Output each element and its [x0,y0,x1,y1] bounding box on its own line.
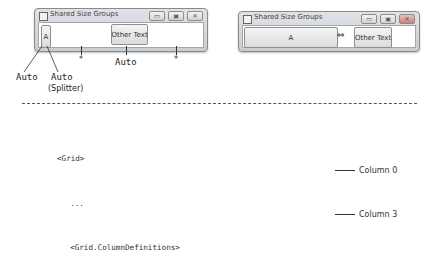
app-icon [243,15,252,24]
right-window-client: A ⇔ Other Text [242,25,416,48]
tick-star-2 [176,46,177,55]
button-other-text[interactable]: Other Text [354,27,392,48]
minimize-icon[interactable]: ▭ [361,14,377,24]
window-title: Shared Size Groups [254,13,322,21]
leader-line [335,214,355,215]
xaml-code-block: <Grid> ... <Grid.ColumnDefinitions> <Col… [57,123,312,265]
label-col1-auto: Auto [51,72,73,82]
app-icon [39,12,48,21]
label-col0-auto: Auto [16,72,38,82]
minimize-icon[interactable]: ▭ [149,11,165,21]
separator-dashed [22,103,417,104]
annotation-column-3: Column 3 [335,210,397,219]
right-window: Shared Size Groups ▭ ▣ ✕ A ⇔ Other Text [238,11,420,52]
maximize-icon[interactable]: ▣ [380,14,396,24]
button-a[interactable]: A [244,27,338,48]
code-line: <Grid.ColumnDefinitions> [61,241,312,256]
left-window-client: A Other Text [38,22,204,48]
label-col4-star: * [174,55,178,64]
code-line: ... [61,197,312,212]
splitter-resize-cursor-icon[interactable]: ⇔ [337,30,345,40]
right-window-titlebar[interactable]: Shared Size Groups ▭ ▣ ✕ [239,12,419,25]
left-window: Shared Size Groups ▭ ▣ ✕ A Other Text [34,8,208,52]
label-col1-splitter: (Splitter) [48,84,83,93]
label-col3-auto: Auto [115,57,137,67]
close-icon[interactable]: ✕ [399,14,415,24]
leader-line [335,170,355,171]
annotation-column-0: Column 0 [335,166,397,175]
code-line: <Grid> [57,152,312,167]
close-icon[interactable]: ✕ [187,11,203,21]
maximize-icon[interactable]: ▣ [168,11,184,21]
label-col2-star: * [79,55,83,64]
button-a[interactable]: A [41,25,51,48]
window-title: Shared Size Groups [50,10,118,18]
tick-star-1 [81,46,82,55]
tick-auto-col3 [126,46,127,55]
button-other-text[interactable]: Other Text [111,24,148,45]
left-window-titlebar[interactable]: Shared Size Groups ▭ ▣ ✕ [35,9,207,22]
